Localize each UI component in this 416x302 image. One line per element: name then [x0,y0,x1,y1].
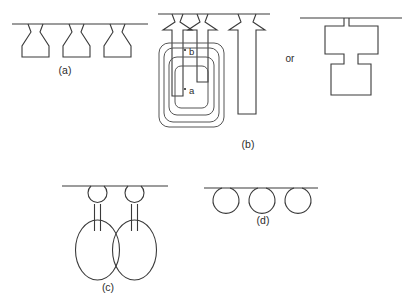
up-arrow-3 [229,14,265,114]
inline-label-a: a [189,85,195,96]
inline-label-b: b [189,46,194,57]
figure-container: (a) (b) (c) (d) b a or [0,0,416,302]
point-marker-a-dot [184,88,186,90]
panel-b-left-group [158,14,270,127]
panel-label-d: (d) [257,214,270,226]
or-connector-label: or [286,53,296,64]
panel-label-a: (a) [59,64,72,76]
balloon-head-1 [88,186,107,202]
stacked-block-shape [325,18,378,95]
balloon-head-2 [125,186,144,202]
panel-a-group [12,24,148,57]
hanging-circle-1 [213,188,239,213]
panel-d-group [204,188,318,213]
panel-b-right-group [300,18,402,95]
up-arrow-1 [163,14,192,96]
technical-diagram: (a) (b) (c) (d) b a or [0,0,416,302]
point-marker-b-dot [184,49,186,51]
panel-label-c: (c) [102,281,114,293]
hanging-circle-3 [285,188,311,213]
panel-c-group [62,186,168,280]
flask-shape-3 [104,24,131,57]
panel-label-b: (b) [242,138,255,150]
flask-shape-1 [22,24,49,57]
hanging-circle-2 [249,188,275,213]
flask-shape-2 [63,24,90,57]
